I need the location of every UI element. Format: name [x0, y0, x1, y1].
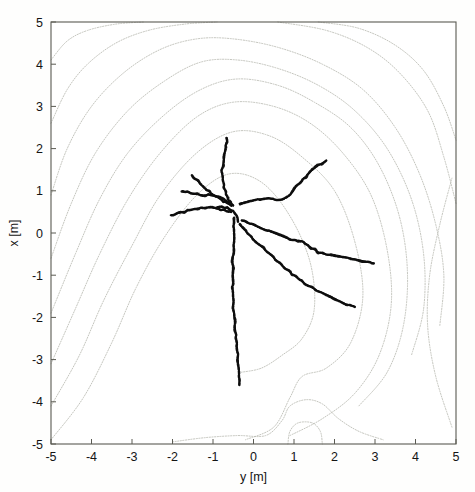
x-tick-label: 2: [331, 450, 338, 464]
plot-background: [51, 22, 456, 444]
y-tick-label: 4: [36, 58, 43, 72]
x-tick-label: 3: [372, 450, 379, 464]
y-tick-label: -2: [32, 311, 43, 325]
y-axis-title: x [m]: [7, 219, 21, 246]
y-tick-label: -5: [32, 438, 43, 452]
y-tick-label: -3: [32, 353, 43, 367]
y-tick-label: 5: [36, 16, 43, 30]
x-tick-label: 1: [291, 450, 298, 464]
x-tick-label: -2: [167, 450, 178, 464]
x-tick-label: -1: [207, 450, 218, 464]
x-tick-label: -3: [126, 450, 137, 464]
x-tick-label: -4: [86, 450, 97, 464]
y-tick-label: 0: [36, 227, 43, 241]
x-tick-label: 4: [412, 450, 419, 464]
contour-trajectory-figure: -5-4-3-2-1012345 -5-4-3-2-1012345 y [m] …: [0, 0, 475, 492]
y-tick-label: -4: [32, 395, 43, 409]
y-tick-label: 3: [36, 100, 43, 114]
y-tick-label: -1: [32, 269, 43, 283]
x-axis-title: y [m]: [240, 470, 267, 484]
x-tick-label: -5: [45, 450, 56, 464]
x-tick-label: 0: [250, 450, 257, 464]
x-tick-label: 5: [453, 450, 460, 464]
plot-svg: -5-4-3-2-1012345 -5-4-3-2-1012345 y [m] …: [0, 0, 475, 492]
y-tick-label: 1: [36, 184, 43, 198]
y-tick-label: 2: [36, 142, 43, 156]
